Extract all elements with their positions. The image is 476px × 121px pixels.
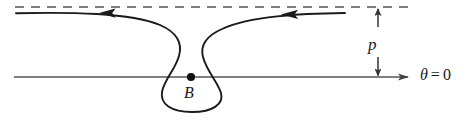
center-point-b-dot xyxy=(187,73,195,81)
equals-sign: = xyxy=(431,66,440,83)
theta-value: 0 xyxy=(443,66,451,83)
particle-trajectory-path xyxy=(16,13,345,112)
scattering-diagram-svg xyxy=(0,0,476,121)
theta-symbol: θ xyxy=(420,66,428,83)
impact-parameter-label: p xyxy=(368,36,377,53)
trajectory-arrow-left-icon xyxy=(99,8,116,17)
figure-root: p B θ=0 xyxy=(0,0,476,121)
polar-axis-label: θ=0 xyxy=(420,67,451,83)
center-point-label: B xyxy=(184,85,194,101)
